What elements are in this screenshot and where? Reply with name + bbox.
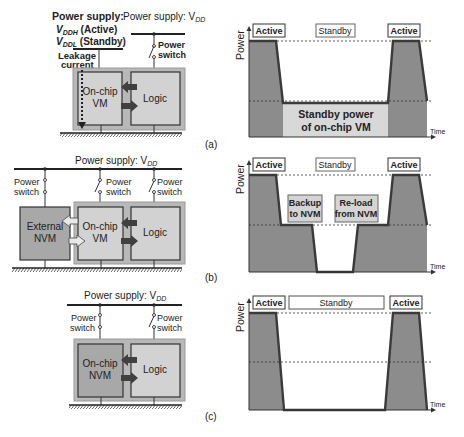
svg-text:Power: Power	[157, 313, 183, 323]
svg-text:VM: VM	[93, 98, 108, 109]
panel-a-circuit: Power supply: VDDH (Active) VDDL (Standb…	[52, 10, 205, 137]
svg-text:VM: VM	[93, 233, 108, 244]
svg-text:On-chip: On-chip	[82, 86, 117, 97]
phase-active-label: Active	[255, 160, 282, 170]
standby-power-annotation: Standby power	[298, 108, 373, 120]
phase-standby-label: Standby	[318, 26, 352, 36]
phase-standby-label: Standby	[319, 298, 353, 308]
panel-a-chart: Power Time Active Standby Active Standby…	[234, 24, 445, 140]
svg-text:Logic: Logic	[143, 227, 167, 238]
panel-a-label: (a)	[205, 139, 217, 150]
svg-text:switch: switch	[157, 323, 182, 333]
svg-text:On-chip: On-chip	[82, 358, 117, 369]
svg-text:Power: Power	[106, 177, 132, 187]
phase-active-label: Active	[390, 26, 417, 36]
svg-text:Logic: Logic	[143, 364, 167, 375]
svg-text:External: External	[27, 221, 64, 232]
reload-label: Re-load	[339, 198, 372, 208]
svg-text:Power: Power	[14, 177, 40, 187]
svg-text:Logic: Logic	[143, 93, 167, 104]
svg-text:Power: Power	[71, 313, 97, 323]
vddh-label: VDDH (Active)	[56, 24, 117, 36]
svg-text:switch: switch	[14, 187, 39, 197]
phase-standby-label: Standby	[318, 160, 352, 170]
phase-active-label: Active	[390, 160, 417, 170]
panel-b-chart: Power Time Active Standby Active Backup …	[234, 158, 445, 275]
panel-b-circuit: Power supply: VDD Power switch Power swi…	[12, 155, 185, 272]
backup-label: to NVM	[290, 209, 321, 219]
x-axis-label: Time	[430, 263, 445, 270]
phase-active-label: Active	[255, 26, 282, 36]
supply-label: Power supply: VDD	[84, 290, 166, 302]
panel-c-label: (c)	[205, 411, 217, 422]
svg-text:switch: switch	[106, 187, 131, 197]
reload-label: from NVM	[335, 209, 378, 219]
backup-label: Backup	[289, 198, 322, 208]
panel-b-label: (b)	[205, 272, 217, 283]
phase-active-label: Active	[392, 298, 419, 308]
svg-text:NVM: NVM	[89, 370, 111, 381]
switch-label: switch	[158, 50, 186, 60]
x-axis-label: Time	[430, 128, 445, 135]
vddl-label: VDDL (Standby)	[56, 36, 126, 48]
svg-text:Power: Power	[157, 177, 183, 187]
standby-power-annotation: of on-chip VM	[301, 121, 371, 133]
y-axis-label: Power	[234, 302, 246, 332]
figure: Power supply: VDDH (Active) VDDL (Standb…	[0, 0, 464, 437]
svg-text:On-chip: On-chip	[82, 221, 117, 232]
y-axis-label: Power	[234, 164, 246, 194]
panel-c-chart: Power Time Active Standby Active	[234, 296, 445, 413]
svg-text:switch: switch	[157, 187, 182, 197]
supply-label: Power supply: VDD	[75, 155, 157, 167]
svg-text:NVM: NVM	[34, 233, 56, 244]
supply-right-label: Power supply: VDD	[123, 11, 205, 23]
switch-label: Power	[158, 40, 186, 50]
supply-left-title: Power supply:	[52, 10, 124, 22]
svg-text:switch: switch	[70, 323, 95, 333]
x-axis-label: Time	[430, 401, 445, 408]
y-axis-label: Power	[234, 30, 246, 60]
panel-c-circuit: Power supply: VDD Power switch Power swi…	[67, 290, 185, 409]
phase-active-label: Active	[255, 298, 282, 308]
